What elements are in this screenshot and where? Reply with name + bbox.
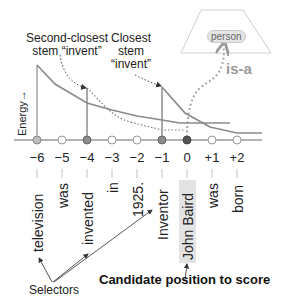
node-minus-6 bbox=[33, 136, 41, 144]
candidate-label: Candidate position to score bbox=[99, 272, 270, 287]
node-plus-1 bbox=[208, 136, 216, 144]
offset-label: −5 bbox=[55, 150, 70, 165]
second-closest-line2: stem “invent” bbox=[12, 45, 122, 58]
second-closest-leader bbox=[60, 55, 86, 88]
node-plus-2 bbox=[233, 136, 241, 144]
word-invented: invented bbox=[80, 192, 96, 245]
second-closest-label: Second-closest stem “invent” bbox=[12, 32, 122, 58]
closest-leader bbox=[135, 75, 161, 86]
node-minus-2 bbox=[133, 136, 141, 144]
word-ticks bbox=[37, 169, 237, 178]
word-inventor: Inventor bbox=[155, 189, 171, 240]
word-john-baird: John Baird bbox=[180, 193, 196, 260]
energy-curve-second-stem-dotted bbox=[87, 88, 185, 130]
closest-line3: “invent” bbox=[108, 58, 154, 71]
person-concept: person bbox=[207, 30, 246, 43]
word-was: was bbox=[55, 183, 71, 208]
closest-label: Closest stem “invent” bbox=[108, 32, 154, 71]
offset-label: +1 bbox=[205, 150, 220, 165]
word-1925: 1925. bbox=[130, 182, 146, 217]
node-minus-4 bbox=[83, 136, 91, 144]
is-a-label: is-a bbox=[226, 60, 252, 77]
offset-label: −4 bbox=[80, 150, 95, 165]
word-was-2: was bbox=[205, 183, 221, 208]
offset-label: −2 bbox=[130, 150, 145, 165]
energy-curve-selector bbox=[37, 65, 230, 123]
node-minus-3 bbox=[108, 136, 116, 144]
word-born: born bbox=[230, 185, 246, 213]
node-minus-1 bbox=[158, 136, 166, 144]
node-minus-5 bbox=[58, 136, 66, 144]
offset-label: −3 bbox=[105, 150, 120, 165]
energy-axis-label: Energy→ bbox=[16, 90, 28, 136]
word-in: in bbox=[105, 182, 121, 193]
offset-label: +2 bbox=[230, 150, 245, 165]
energy-curve-stem bbox=[162, 87, 262, 133]
offset-label: −1 bbox=[155, 150, 170, 165]
word-television: television bbox=[30, 194, 46, 252]
offset-label: 0 bbox=[183, 150, 190, 165]
offset-label: −6 bbox=[30, 150, 45, 165]
node-zero-candidate bbox=[183, 136, 191, 144]
selectors-label: Selectors bbox=[29, 283, 79, 297]
